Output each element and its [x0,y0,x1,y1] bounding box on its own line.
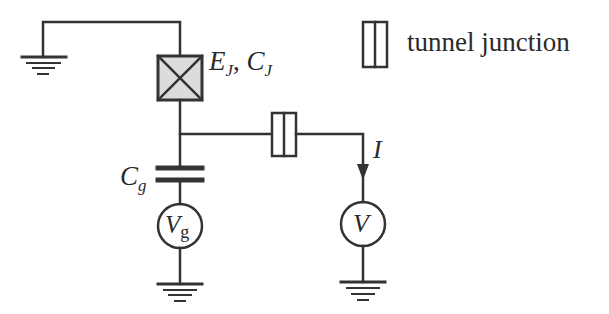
legend-tunnel-junction-label: tunnel junction [407,29,570,56]
cj-subscript: J [264,61,271,80]
legend-tunnel-junction-icon [363,22,387,67]
cg-subscript: g [138,176,146,195]
ej-symbol: E [209,46,226,76]
vg-symbol: V [165,211,180,238]
wire-top [43,22,180,57]
tunnel-junction-icon [272,113,296,156]
current-arrow-icon [357,164,369,180]
label-separator: , [233,46,247,76]
josephson-junction-icon [158,56,202,100]
ground-gate-icon [158,284,202,301]
circuit-diagram: EJ, CJ tunnel junction I Cg Vg V [0,0,609,314]
ground-left-icon [22,57,66,74]
ej-subscript: J [226,61,233,80]
current-label: I [373,137,382,163]
ground-right-icon [341,282,385,300]
voltmeter-label: V [353,211,369,237]
gate-voltage-label: Vg [165,212,189,241]
gate-capacitor-label: Cg [120,163,146,195]
wire-right [296,134,363,202]
cj-symbol: C [246,46,264,76]
josephson-junction-label: EJ, CJ [209,48,272,80]
vg-subscript: g [180,222,189,242]
cg-symbol: C [120,161,138,191]
gate-capacitor-icon [158,168,202,180]
